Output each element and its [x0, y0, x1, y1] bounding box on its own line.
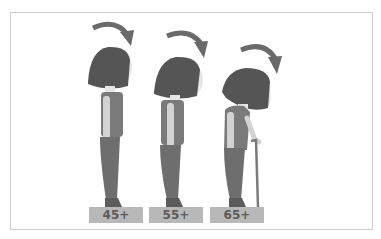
arrow-head-icon: [268, 56, 282, 74]
figure-45: [88, 24, 134, 207]
arm: [227, 112, 234, 152]
hair: [154, 57, 200, 99]
arrow-head-icon: [194, 41, 208, 58]
pants: [160, 145, 181, 200]
cane-icon: [251, 140, 258, 207]
pants: [100, 137, 120, 200]
posture-illustration: [0, 0, 381, 239]
figure-55: [154, 33, 208, 207]
front-arm: [247, 118, 259, 142]
hair: [88, 47, 130, 89]
figure-65: [222, 47, 282, 207]
arm: [167, 103, 174, 149]
arm: [103, 96, 110, 141]
age-label-45: 45+: [89, 207, 143, 223]
age-label-55: 55+: [149, 207, 203, 223]
pants: [224, 148, 245, 200]
age-label-65: 65+: [210, 207, 264, 223]
hair: [222, 68, 270, 110]
arrow-head-icon: [120, 30, 134, 46]
